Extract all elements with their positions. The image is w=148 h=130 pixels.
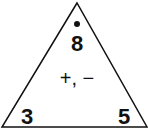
top-number: 8	[71, 31, 83, 56]
left-number: 3	[21, 104, 33, 129]
fact-family-diagram: 8 +, − 3 5	[0, 0, 148, 130]
operations-label: +, −	[60, 67, 94, 89]
top-dot-marker	[74, 21, 80, 27]
right-number: 5	[118, 104, 130, 129]
